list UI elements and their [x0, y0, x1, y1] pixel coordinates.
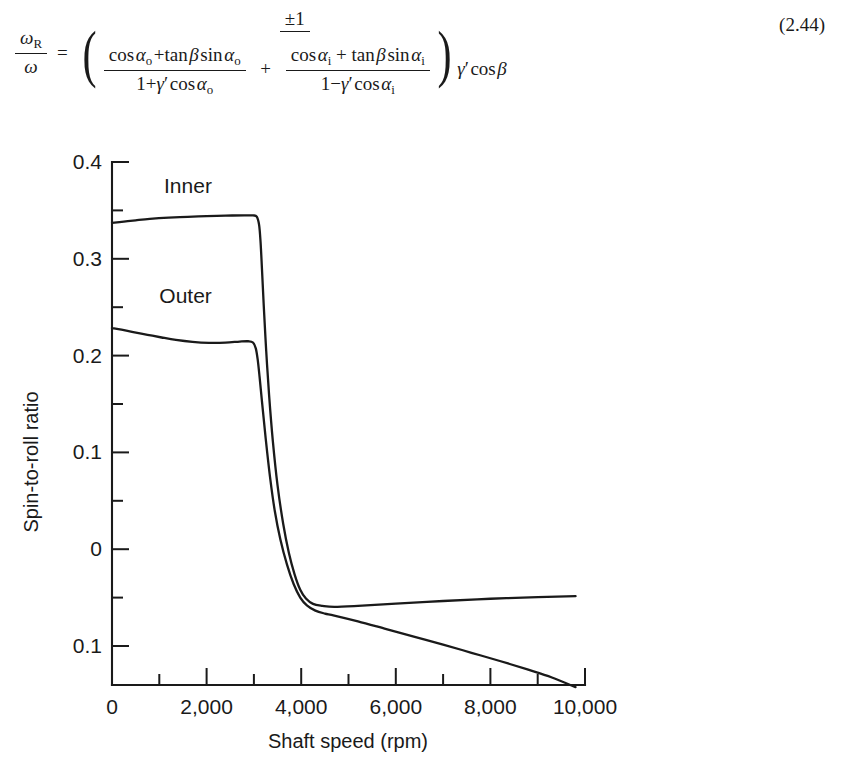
term2-fraction: cos αi + tan β sin αi 1−γ′ cos αi: [286, 44, 430, 97]
left-paren: (: [82, 34, 96, 74]
term1-fraction: cos αo +tan β sin αo 1+γ′ cos αo: [104, 44, 246, 97]
operator-plus: +: [260, 58, 271, 79]
y-tick-label: 0: [90, 537, 102, 560]
series-inline-labels: InnerOuter: [159, 174, 212, 307]
y-tick-label: 0.1: [73, 634, 102, 657]
term1-denominator: 1+γ′ cos αo: [131, 71, 218, 98]
x-tick-label: 10,000: [553, 695, 617, 718]
rhs-fraction: ±1 ( cos αo +tan β sin αo 1+γ′ cos αo + …: [78, 8, 512, 97]
y-axis-ticks: [112, 162, 129, 646]
y-tick-label: 0.1: [73, 440, 102, 463]
trailing-factor: γ′ cos β: [456, 58, 507, 79]
x-tick-label: 8,000: [464, 695, 517, 718]
x-tick-label: 0: [106, 695, 118, 718]
y-tick-label: 0.4: [73, 150, 103, 173]
term1-numerator: cos αo +tan β sin αo: [104, 44, 246, 71]
curve-label-inner: Inner: [164, 174, 212, 197]
y-tick-label: 0.3: [73, 247, 102, 270]
lhs-fraction: ωR ω: [15, 27, 47, 78]
rhs-numerator: ±1: [280, 8, 310, 32]
lhs-denominator: ω: [19, 54, 42, 78]
y-axis-tick-labels: 0.40.30.20.100.1: [73, 150, 103, 657]
x-axis-tick-labels: 02,0004,0006,0008,00010,000: [106, 695, 617, 718]
equation-block: ωR ω = ±1 ( cos αo +tan β sin αo 1+γ′ co…: [0, 0, 853, 132]
lhs-numerator: ωR: [15, 27, 47, 54]
rhs-denominator: ( cos αo +tan β sin αo 1+γ′ cos αo + cos…: [78, 32, 512, 97]
x-axis-ticks: [112, 668, 585, 685]
chart-figure: 0.40.30.20.100.1 02,0004,0006,0008,00010…: [0, 132, 853, 768]
y-tick-label: 0.2: [73, 344, 102, 367]
x-tick-label: 6,000: [370, 695, 423, 718]
x-tick-label: 2,000: [180, 695, 233, 718]
y-axis-title: Spin-to-roll ratio: [20, 391, 42, 532]
right-paren: ): [437, 34, 451, 74]
equals-sign: =: [57, 42, 68, 64]
curve-label-outer: Outer: [159, 284, 212, 307]
term2-numerator: cos αi + tan β sin αi: [286, 44, 430, 71]
equation-expression: ωR ω = ±1 ( cos αo +tan β sin αo 1+γ′ co…: [12, 8, 515, 97]
x-axis-title: Shaft speed (rpm): [268, 730, 428, 752]
term2-denominator: 1−γ′ cos αi: [316, 71, 400, 98]
curve-outer: [112, 328, 576, 687]
spin-to-roll-ratio-chart: 0.40.30.20.100.1 02,0004,0006,0008,00010…: [0, 132, 853, 768]
x-tick-label: 4,000: [275, 695, 328, 718]
equation-number: (2.44): [779, 14, 825, 36]
curve-inner: [112, 215, 576, 607]
